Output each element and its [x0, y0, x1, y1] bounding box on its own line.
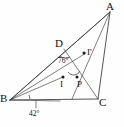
point-dot-Iprime: [83, 52, 86, 55]
segment-side-BC: [10, 99, 98, 100]
vertex-label-A: A: [106, 1, 114, 12]
point-label-I: I: [60, 80, 63, 89]
arc-angle-B: [29, 95, 30, 99]
arc-angle-P: [68, 71, 80, 75]
angle-label-76: 76°: [58, 57, 69, 65]
point-label-D: D: [55, 38, 63, 49]
segment-cevian-D-C: [64, 49, 98, 99]
segment-baseline-extension: [10, 100, 60, 101]
point-label-P: P: [77, 80, 82, 89]
angle-label-42: 42°: [29, 110, 40, 118]
geometry-figure: A B C D I P I' 76° 42°: [0, 0, 124, 127]
vertex-label-C: C: [99, 97, 106, 108]
point-label-I-prime: I': [87, 48, 92, 57]
vertex-label-B: B: [0, 93, 7, 104]
segment-B-I: [10, 77, 63, 100]
